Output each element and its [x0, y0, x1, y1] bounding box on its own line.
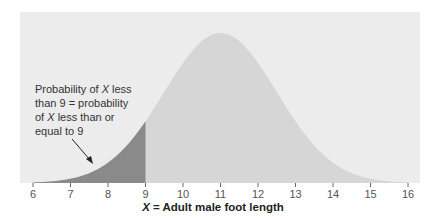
annotation-line-1: Probability of X less	[35, 83, 132, 95]
x-tick-label: 8	[105, 188, 111, 200]
annotation-line-2: than 9 = probability	[35, 97, 129, 109]
x-tick-label: 13	[289, 188, 301, 200]
x-tick-label: 11	[215, 188, 226, 200]
x-tick-label: 9	[142, 188, 148, 200]
x-tick-label: 15	[364, 188, 376, 200]
x-axis-label: X = Adult male foot length	[141, 201, 284, 213]
normal-curve-chart: 678910111213141516 Probability of X less…	[0, 0, 443, 218]
x-tick-label: 10	[177, 188, 189, 200]
annotation-line-4: equal to 9	[35, 125, 83, 137]
x-tick-label: 6	[30, 188, 36, 200]
x-tick-label: 16	[402, 188, 414, 200]
x-tick-label: 7	[67, 188, 73, 200]
x-tick-label: 12	[252, 188, 264, 200]
annotation-line-3: of X less than or	[35, 111, 115, 123]
x-axis-ticks: 678910111213141516	[30, 183, 414, 200]
x-tick-label: 14	[327, 188, 339, 200]
